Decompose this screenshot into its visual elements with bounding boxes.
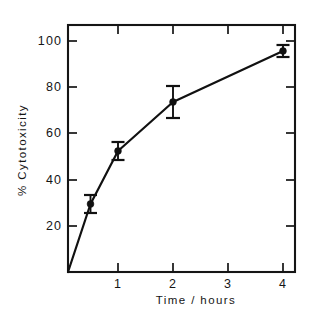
x-tick-label-4: 4 bbox=[279, 277, 287, 291]
x-tick-label-2: 2 bbox=[169, 277, 177, 291]
y-axis-title: % Cytotoxicity bbox=[16, 104, 28, 196]
cytotoxicity-line-chart: 100 80 60 40 20 1 2 3 4 Time / hours % C… bbox=[0, 0, 318, 313]
x-tick-label-3: 3 bbox=[224, 277, 232, 291]
y-tick-label-20: 20 bbox=[46, 219, 62, 233]
data-point-1h bbox=[115, 148, 122, 155]
data-point-2h bbox=[170, 99, 177, 106]
x-tick-label-1: 1 bbox=[114, 277, 122, 291]
figure-container: 100 80 60 40 20 1 2 3 4 Time / hours % C… bbox=[0, 0, 318, 313]
x-axis-title: Time / hours bbox=[156, 294, 236, 306]
y-tick-label-60: 60 bbox=[46, 126, 62, 140]
y-tick-label-80: 80 bbox=[46, 80, 62, 94]
y-tick-label-100: 100 bbox=[38, 34, 62, 48]
data-point-4h bbox=[280, 48, 287, 55]
y-tick-label-40: 40 bbox=[46, 173, 62, 187]
data-point-0-5h bbox=[87, 201, 94, 208]
